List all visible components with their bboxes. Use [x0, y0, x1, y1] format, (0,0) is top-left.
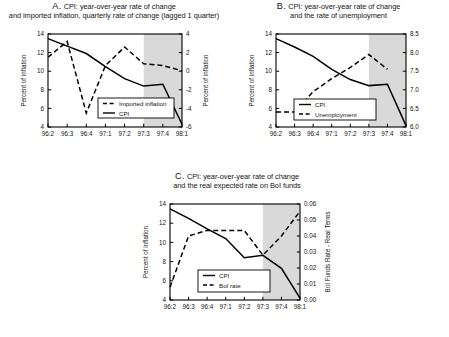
y2-axis-label: BoI Funds Rate - Real Terms — [324, 212, 331, 293]
panel-c: C. CPI: year-over-year rate of change an… — [112, 172, 362, 337]
panel-c-title-line1: CPI: year-over-year rate of change — [187, 172, 299, 181]
panel-b-title: B. CPI: year-over-year rate of change an… — [228, 2, 449, 20]
y2-tick-label: 8.5 — [410, 31, 419, 38]
panel-c-title-line2: and the real expected rate on BoI funds — [173, 181, 300, 190]
panel-a-title-line2: and imported inflation, quarterly rate o… — [9, 11, 219, 20]
legend-label: CPI — [315, 102, 326, 109]
y2-axis-label: Percent of inflation — [202, 54, 209, 107]
y2-tick-label: -4 — [186, 105, 192, 112]
chart-legend: CPIBoI rate — [198, 270, 270, 292]
y-tick-label: 14 — [37, 31, 45, 38]
panel-a-title: A. CPI: year-over-year rate of change an… — [0, 2, 228, 20]
chart-legend: CPIUnemployment — [294, 99, 376, 120]
x-tick-label: 97:2 — [238, 303, 251, 310]
panel-b-label: B. — [277, 1, 286, 11]
x-tick-label: 97:4 — [157, 130, 170, 137]
panel-c-title: C. CPI: year-over-year rate of change an… — [112, 172, 362, 190]
panel-c-label: C. — [175, 171, 185, 181]
y-tick-label: 12 — [265, 49, 273, 56]
y-tick-label: 10 — [37, 68, 45, 75]
y-axis-label: Percent of inflation — [142, 226, 149, 279]
y-axis-label: Percent of inflation — [20, 54, 27, 107]
y2-tick-label: 0.01 — [304, 281, 317, 288]
y2-tick-label: 7.5 — [410, 68, 419, 75]
y-axis-label: Percent of inflation — [248, 54, 255, 107]
y2-tick-label: 2 — [186, 49, 190, 56]
x-tick-label: 97:3 — [138, 130, 151, 137]
y-tick-label: 6 — [268, 105, 272, 112]
chart-legend: Imported inflationCPI — [98, 98, 174, 118]
legend-label: CPI — [219, 273, 230, 280]
y-tick-label: 10 — [159, 239, 167, 246]
y-tick-label: 8 — [162, 258, 166, 265]
y2-tick-label: 0.04 — [304, 233, 317, 240]
panel-b: B. CPI: year-over-year rate of change an… — [228, 2, 449, 168]
panel-b-title-line1: CPI: year-over-year rate of change — [288, 2, 400, 11]
panel-c-plot: 4681012140.000.010.020.030.040.050.0696:… — [112, 190, 362, 318]
y2-tick-label: 0.05 — [304, 217, 317, 224]
y2-tick-label: -2 — [186, 86, 192, 93]
x-tick-label: 96:4 — [80, 130, 93, 137]
legend-label: Unemployment — [315, 111, 357, 118]
x-tick-label: 96:3 — [288, 130, 301, 137]
x-tick-label: 97:2 — [344, 130, 357, 137]
x-tick-label: 97:4 — [381, 130, 394, 137]
x-tick-label: 97:3 — [257, 303, 270, 310]
panel-b-plot: 4681012146.06.57.07.58.08.596:296:396:49… — [228, 20, 449, 144]
y2-tick-label: 7.0 — [410, 86, 419, 93]
panel-b-title-line2: and the rate of unemployment — [290, 11, 387, 20]
x-tick-label: 96:2 — [42, 130, 55, 137]
figure-root: A. CPI: year-over-year rate of change an… — [0, 0, 449, 337]
x-tick-label: 96:2 — [164, 303, 177, 310]
y-tick-label: 14 — [159, 201, 167, 208]
x-tick-label: 96:3 — [61, 130, 74, 137]
y2-tick-label: 4 — [186, 31, 190, 38]
x-tick-label: 98:1 — [400, 130, 413, 137]
x-tick-label: 96:4 — [201, 303, 214, 310]
y2-tick-label: 0.03 — [304, 249, 317, 256]
panel-a: A. CPI: year-over-year rate of change an… — [0, 2, 228, 168]
y-tick-label: 6 — [162, 277, 166, 284]
x-tick-label: 96:3 — [182, 303, 195, 310]
y-tick-label: 8 — [40, 86, 44, 93]
panel-b-chart: 4681012146.06.57.07.58.08.596:296:396:49… — [228, 20, 449, 144]
x-tick-label: 98:1 — [176, 130, 189, 137]
panel-a-label: A. — [52, 1, 61, 11]
y2-tick-label: 0 — [186, 68, 190, 75]
x-tick-label: 97:3 — [363, 130, 376, 137]
y-tick-label: 10 — [265, 68, 273, 75]
panel-a-plot: 468101214-6-4-202496:296:396:497:197:297… — [0, 20, 228, 144]
x-tick-label: 97:1 — [220, 303, 233, 310]
x-tick-label: 97:1 — [99, 130, 112, 137]
x-tick-label: 97:1 — [326, 130, 339, 137]
panel-a-title-line1: CPI: year-over-year rate of change — [64, 2, 176, 11]
x-tick-label: 97:2 — [118, 130, 131, 137]
x-tick-label: 96:2 — [270, 130, 283, 137]
legend-label: Imported inflation — [119, 101, 167, 108]
y-tick-label: 6 — [40, 105, 44, 112]
y2-tick-label: 8.0 — [410, 49, 419, 56]
legend-label: CPI — [119, 110, 130, 117]
x-tick-label: 96:4 — [307, 130, 320, 137]
x-tick-label: 97:4 — [275, 303, 288, 310]
x-tick-label: 98:1 — [294, 303, 307, 310]
y2-tick-label: 6.5 — [410, 105, 419, 112]
panel-c-chart: 4681012140.000.010.020.030.040.050.0696:… — [112, 190, 362, 318]
y-tick-label: 14 — [265, 31, 273, 38]
y2-tick-label: 0.06 — [304, 201, 317, 208]
y-tick-label: 12 — [159, 220, 167, 227]
y2-tick-label: 0.02 — [304, 265, 317, 272]
panel-a-chart: 468101214-6-4-202496:296:396:497:197:297… — [0, 20, 228, 144]
y-tick-label: 12 — [37, 49, 45, 56]
y-tick-label: 8 — [268, 86, 272, 93]
legend-label: BoI rate — [219, 282, 241, 289]
